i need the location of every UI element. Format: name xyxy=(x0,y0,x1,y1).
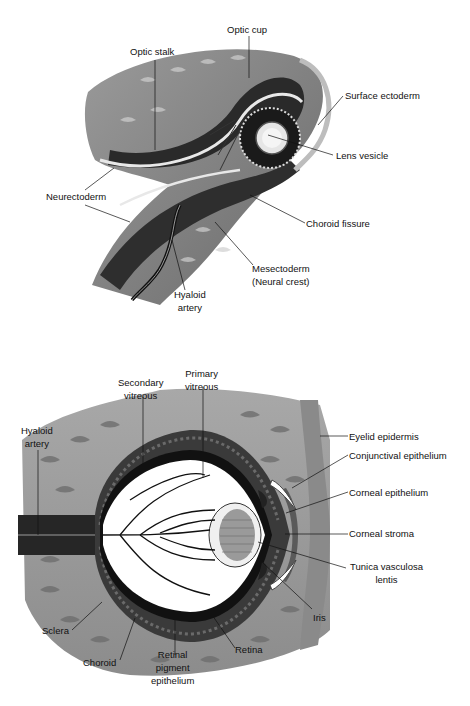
label-optic-stalk: Optic stalk xyxy=(130,45,174,58)
label-tunica-line2: lentis xyxy=(350,573,423,586)
label-retina: Retina xyxy=(235,643,262,656)
label-hyaloid-line1: Hyaloid xyxy=(174,288,206,301)
label-sclera: Sclera xyxy=(42,624,69,637)
label-rpe-line1: Retinal xyxy=(151,648,194,661)
label-iris: Iris xyxy=(313,611,326,624)
label-hyaloid-line2: artery xyxy=(174,301,206,314)
label-secondary-vitreous-line1: Secondary xyxy=(118,376,163,389)
label-rpe-line3: epithelium xyxy=(151,674,194,687)
label-rpe-line2: pigment xyxy=(151,661,194,674)
label-primary-vitreous: Primary vitreous xyxy=(185,367,218,393)
label-hyaloid-bottom-line1: Hyaloid xyxy=(21,424,53,437)
label-neurectoderm: Neurectoderm xyxy=(46,190,106,203)
label-mesectoderm: Mesectoderm (Neural crest) xyxy=(252,262,310,288)
fetal-eye-figure: Secondary vitreous Primary vitreous Hyal… xyxy=(0,330,470,706)
label-primary-vitreous-line1: Primary xyxy=(185,367,218,380)
label-hyaloid-artery-bottom: Hyaloid artery xyxy=(21,424,53,450)
label-choroid: Choroid xyxy=(83,656,116,669)
label-mesectoderm-line2: (Neural crest) xyxy=(252,275,310,288)
label-secondary-vitreous-line2: vitreous xyxy=(118,389,163,402)
label-optic-cup: Optic cup xyxy=(227,23,267,36)
label-hyaloid-bottom-line2: artery xyxy=(21,437,53,450)
label-surface-ectoderm: Surface ectoderm xyxy=(345,89,420,102)
label-mesectoderm-line1: Mesectoderm xyxy=(252,262,310,275)
label-choroid-fissure: Choroid fissure xyxy=(306,217,370,230)
label-hyaloid-artery-top: Hyaloid artery xyxy=(174,288,206,314)
label-retinal-pigment-epithelium: Retinal pigment epithelium xyxy=(151,648,194,687)
label-primary-vitreous-line2: vitreous xyxy=(185,380,218,393)
label-lens-vesicle: Lens vesicle xyxy=(336,149,388,162)
label-secondary-vitreous: Secondary vitreous xyxy=(118,376,163,402)
label-tunica-line1: Tunica vasculosa xyxy=(350,560,423,573)
label-eyelid-epidermis: Eyelid epidermis xyxy=(349,430,419,443)
optic-cup-illustration xyxy=(0,0,470,330)
label-tunica-vasculosa-lentis: Tunica vasculosa lentis xyxy=(350,560,423,586)
label-conjunctival-epithelium: Conjunctival epithelium xyxy=(349,449,447,462)
label-corneal-epithelium: Corneal epithelium xyxy=(349,486,428,499)
optic-cup-figure: Optic cup Optic stalk Surface ectoderm L… xyxy=(0,0,470,330)
label-corneal-stroma: Corneal stroma xyxy=(349,527,414,540)
